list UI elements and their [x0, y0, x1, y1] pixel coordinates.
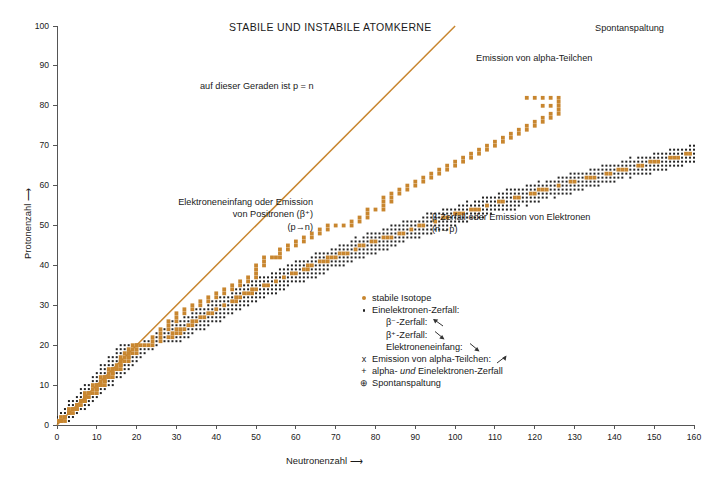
x-tick-70: 70: [321, 432, 351, 442]
circled-plus-marker-icon: ⊕: [356, 377, 372, 389]
legend-item-spontaneous-fission: ⊕Spontanspaltung: [356, 377, 510, 389]
plus-marker-icon: +: [356, 365, 372, 377]
x-tick-20: 20: [122, 432, 152, 442]
x-marker-icon: x: [356, 353, 372, 365]
x-tick-0: 0: [42, 432, 72, 442]
arrow-down-right-icon-capture: [463, 342, 484, 352]
x-axis-title: Neutronenzahl ⟶: [286, 455, 363, 466]
legend-item-single-electron-decay: Einelektronen-Zerfall:: [356, 304, 510, 316]
legend-item-alpha-emission: xEmission von alpha-Teilchen:: [356, 353, 510, 365]
annotation-electron-capture-line2: von Positronen (β⁺): [85, 208, 313, 220]
y-axis-title: Protonenzahl ⟶: [22, 169, 33, 279]
chart-legend: stabile Isotope Einelektronen-Zerfall: β…: [356, 292, 510, 390]
x-tick-50: 50: [241, 432, 271, 442]
x-tick-160: 160: [679, 432, 709, 442]
y-tick-20: 20: [23, 340, 49, 350]
x-tick-30: 30: [161, 432, 191, 442]
legend-label-stable-isotopes: stabile Isotope: [372, 292, 431, 304]
legend-item-beta-plus: β⁺-Zerfall:: [356, 329, 510, 341]
y-tick-90: 90: [23, 60, 49, 70]
nuclide-chart-plot: [0, 0, 714, 478]
arrow-down-right-icon-beta-plus: [427, 330, 448, 340]
y-tick-0: 0: [23, 420, 49, 430]
legend-item-electron-capture: Elektroneneinfang:: [356, 341, 510, 353]
x-tick-140: 140: [599, 432, 629, 442]
annotation-beta-decay: β-Zerfall oder Emission von Elektronen (…: [432, 211, 590, 236]
annotation-spontaneous-fission: Spontanspaltung: [595, 22, 664, 34]
annotation-beta-decay-line2: (n→p): [432, 223, 590, 235]
x-tick-120: 120: [520, 432, 550, 442]
chart-title: STABILE UND INSTABILE ATOMKERNE: [229, 21, 432, 33]
x-tick-130: 130: [560, 432, 590, 442]
y-tick-80: 80: [23, 100, 49, 110]
x-tick-110: 110: [480, 432, 510, 442]
x-tick-10: 10: [82, 432, 112, 442]
x-tick-60: 60: [281, 432, 311, 442]
legend-item-alpha-and-electron-decay: +alpha- und Einelektronen-Zerfall: [356, 365, 510, 377]
orange-dot-icon: [356, 292, 372, 304]
annotation-beta-decay-line1: β-Zerfall oder Emission von Elektronen: [432, 211, 590, 223]
legend-label-electron-capture: Elektroneneinfang:: [386, 341, 463, 353]
legend-item-beta-minus: β⁻-Zerfall:: [356, 316, 510, 328]
legend-label-single-electron-decay: Einelektronen-Zerfall:: [372, 304, 459, 316]
annotation-p-equals-n: auf dieser Geraden ist p = n: [200, 80, 314, 92]
legend-label-spontaneous-fission: Spontanspaltung: [372, 377, 441, 389]
x-tick-150: 150: [639, 432, 669, 442]
y-tick-10: 10: [23, 380, 49, 390]
legend-label-alpha-pre: alpha-: [372, 366, 400, 376]
black-dot-icon: [356, 304, 372, 316]
annotation-electron-capture: Elektroneneinfang oder Emission von Posi…: [85, 196, 313, 233]
annotation-electron-capture-line3: (p→n): [85, 221, 313, 233]
x-tick-80: 80: [361, 432, 391, 442]
arrow-up-right-icon: [491, 354, 510, 364]
annotation-electron-capture-line1: Elektroneneinfang oder Emission: [85, 196, 313, 208]
y-tick-100: 100: [23, 21, 49, 31]
x-tick-90: 90: [400, 432, 430, 442]
legend-label-alpha-and-electron-decay: alpha- und Einelektronen-Zerfall: [372, 365, 503, 377]
x-tick-100: 100: [440, 432, 470, 442]
legend-label-beta-plus: β⁺-Zerfall:: [386, 329, 427, 341]
x-tick-40: 40: [201, 432, 231, 442]
arrow-up-left-icon: [427, 317, 446, 327]
y-tick-70: 70: [23, 140, 49, 150]
y-tick-30: 30: [23, 300, 49, 310]
legend-label-alpha-ital: und: [400, 366, 415, 376]
legend-label-alpha-emission: Emission von alpha-Teilchen:: [372, 353, 491, 365]
legend-item-stable-isotopes: stabile Isotope: [356, 292, 510, 304]
legend-label-alpha-post: Einelektronen-Zerfall: [415, 366, 502, 376]
annotation-alpha-emission: Emission von alpha-Teilchen: [476, 52, 592, 64]
legend-label-beta-minus: β⁻-Zerfall:: [386, 316, 427, 328]
